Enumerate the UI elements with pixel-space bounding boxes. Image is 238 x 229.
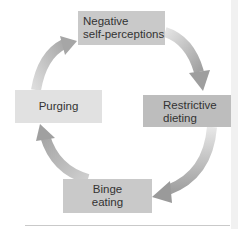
node-label-line: Binge bbox=[63, 183, 152, 196]
node-binge-eating: Binge eating bbox=[63, 179, 152, 213]
node-restrictive-dieting: Restrictive dieting bbox=[143, 95, 231, 127]
arrow-purging-to-negative bbox=[36, 36, 77, 90]
node-label-line: self-perceptions bbox=[83, 28, 165, 41]
node-label-line: dieting bbox=[163, 112, 231, 125]
node-label-line: Restrictive bbox=[163, 99, 231, 112]
node-negative-self-perceptions: Negative self-perceptions bbox=[78, 11, 165, 45]
arrow-negative-to-restrictive bbox=[165, 32, 210, 91]
arrow-binge-to-purging bbox=[36, 124, 88, 179]
arrow-restrictive-to-binge bbox=[152, 127, 212, 203]
node-label-line: Purging bbox=[39, 100, 79, 112]
node-purging: Purging bbox=[15, 90, 102, 123]
node-label-line: Negative bbox=[83, 15, 165, 28]
node-label-line: eating bbox=[63, 196, 152, 209]
